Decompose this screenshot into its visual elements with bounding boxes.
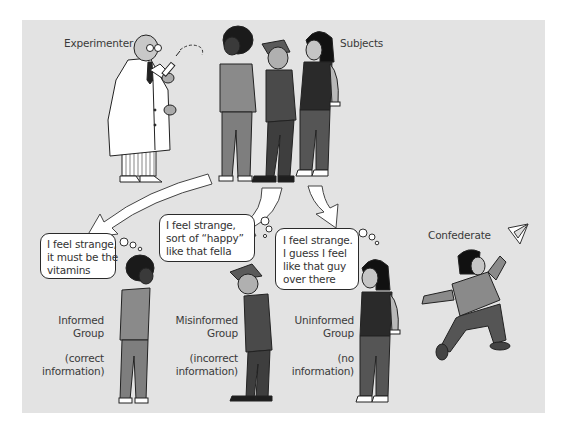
group-info: information) (42, 365, 104, 378)
subjects-label: Subjects (340, 37, 383, 50)
subject-1-figure (219, 26, 256, 181)
group-name: Uninformed (286, 314, 354, 327)
group-name: Group (170, 327, 238, 340)
group-name: Misinformed (170, 314, 238, 327)
group-label-misinformed: Misinformed Group (incorrect information… (170, 314, 238, 378)
group-info: (correct (42, 352, 104, 365)
group-name: Group (42, 327, 104, 340)
group-info: information) (170, 365, 238, 378)
subject-2-figure (252, 40, 296, 182)
bubble-line: sort of “happy” (166, 232, 248, 245)
bubble-line: over there (283, 273, 351, 286)
bubble-line: vitamins (47, 264, 109, 277)
group-label-informed: Informed Group (correct information) (42, 314, 104, 378)
group-label-uninformed: Uninformed Group (no information) (286, 314, 354, 378)
thought-bubble-uninformed: I feel strange. I guess I feel like that… (275, 228, 359, 290)
group-info: (incorrect (170, 352, 238, 365)
group-info: (no (286, 352, 354, 365)
thought-bubble-informed: I feel strange, it must be the vitamins (40, 233, 116, 279)
thought-bubble-misinformed: I feel strange, sort of “happy” like tha… (159, 214, 255, 262)
group-info: information) (286, 365, 354, 378)
informed-subject-figure (119, 255, 154, 403)
confederate-figure (422, 250, 510, 360)
subject-3-figure (296, 31, 340, 176)
bubble-line: like that fella (166, 245, 248, 258)
group-name: Group (286, 327, 354, 340)
uninformed-subject-figure (356, 259, 400, 402)
experimenter-label: Experimenter (64, 37, 133, 50)
bubble-line: I guess I feel (283, 247, 351, 260)
bubble-line: it must be the (47, 251, 109, 264)
paper-airplane-icon (508, 224, 528, 244)
confederate-label: Confederate (428, 229, 491, 242)
bubble-line: I feel strange, (47, 238, 109, 251)
bubble-line: I feel strange, (166, 219, 248, 232)
bubble-line: I feel strange. (283, 234, 351, 247)
bubble-line: like that guy (283, 260, 351, 273)
experimenter-figure (108, 35, 203, 182)
group-name: Informed (42, 314, 104, 327)
syringe-icon (162, 51, 180, 76)
